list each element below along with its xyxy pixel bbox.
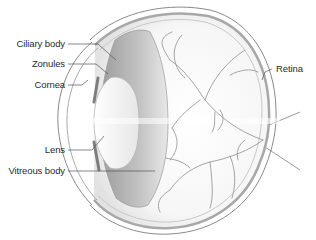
label-retina: Retina [276, 63, 303, 74]
eye-illustration [0, 0, 316, 240]
label-vitreous-body: Vitreous body [0, 165, 65, 176]
leader-cornea [68, 80, 88, 85]
light-band [90, 118, 280, 124]
label-lens: Lens [0, 144, 65, 155]
label-cornea: Cornea [0, 79, 65, 90]
eye-diagram: Ciliary body Zonules Cornea Lens Vitreou… [0, 0, 316, 240]
label-zonules: Zonules [0, 58, 65, 69]
label-ciliary-body: Ciliary body [0, 38, 65, 49]
